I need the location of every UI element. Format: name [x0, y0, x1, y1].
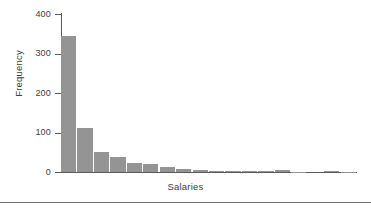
bar: [143, 164, 158, 172]
bar: [176, 169, 191, 172]
bar: [225, 171, 240, 172]
bar: [258, 171, 273, 172]
bar: [193, 170, 208, 172]
y-axis-tick-label-300: 300: [11, 49, 51, 58]
x-axis-title: Salaries: [0, 181, 371, 192]
y-axis-tick-label-400: 400: [11, 10, 51, 19]
bar: [127, 163, 142, 172]
bar: [110, 157, 125, 172]
y-axis-tick-label-0: 0: [11, 168, 51, 177]
bar-series: [61, 14, 357, 172]
bar: [324, 171, 339, 172]
histogram-figure: Frequency 0100200300400 Salaries: [0, 0, 371, 210]
bar: [242, 171, 257, 172]
bar: [61, 36, 76, 172]
bar: [77, 128, 92, 172]
bar: [94, 152, 109, 172]
x-axis-line: [61, 172, 357, 173]
bar: [275, 170, 290, 172]
y-axis-tick-label-200: 200: [11, 89, 51, 98]
bar: [160, 167, 175, 172]
y-axis-tick-label-100: 100: [11, 128, 51, 137]
y-axis-title: Frequency: [13, 34, 24, 114]
page-divider-rule: [0, 202, 371, 203]
bar: [209, 171, 224, 172]
